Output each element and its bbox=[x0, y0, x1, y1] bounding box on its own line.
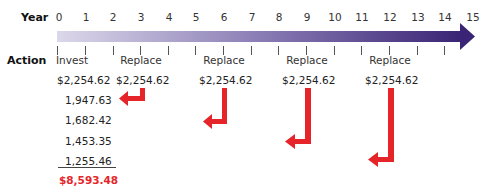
present-value-2: 1,682.42 bbox=[65, 114, 112, 126]
tick bbox=[444, 46, 445, 55]
timeline-arrow-bar bbox=[57, 23, 475, 50]
tick bbox=[417, 46, 418, 55]
present-value-1: 1,947.63 bbox=[65, 94, 112, 106]
discount-arrow-year6 bbox=[203, 88, 227, 129]
discount-arrow-year3 bbox=[119, 88, 145, 106]
tick bbox=[113, 46, 114, 55]
total-present-value: $8,593.48 bbox=[59, 174, 118, 186]
present-value-3: 1,453.35 bbox=[65, 135, 112, 147]
tick bbox=[334, 46, 335, 55]
amount-year9: $2,254.62 bbox=[282, 74, 335, 86]
action-label-year0: Invest bbox=[56, 54, 88, 66]
tick bbox=[278, 46, 279, 55]
discount-arrow-year9 bbox=[285, 88, 311, 149]
amount-year3: $2,254.62 bbox=[116, 74, 169, 86]
action-label-year6: Replace bbox=[203, 54, 245, 66]
action-label-year3: Replace bbox=[120, 54, 162, 66]
tick bbox=[195, 46, 196, 55]
discount-arrow-year12 bbox=[368, 88, 394, 167]
sum-rule bbox=[58, 167, 116, 168]
tick bbox=[168, 46, 169, 55]
amount-year12: $2,254.62 bbox=[365, 74, 418, 86]
tick bbox=[361, 46, 362, 55]
present-value-4: 1,255.46 bbox=[65, 155, 112, 167]
action-label-year12: Replace bbox=[369, 54, 411, 66]
amount-year6: $2,254.62 bbox=[199, 74, 252, 86]
tick bbox=[251, 46, 252, 55]
action-label-year9: Replace bbox=[286, 54, 328, 66]
amount-year0: $2,254.62 bbox=[57, 74, 110, 86]
